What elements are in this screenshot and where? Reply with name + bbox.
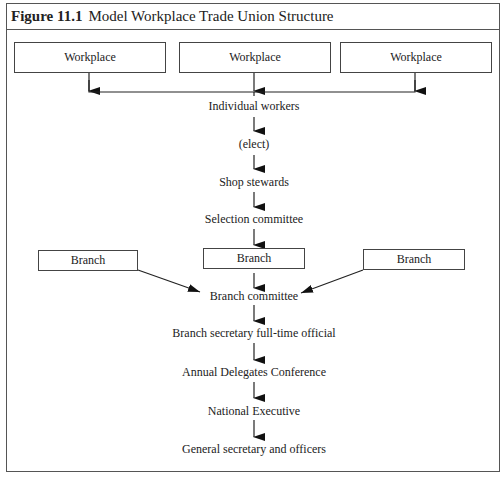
branch-box-1: Branch [38,250,138,271]
figure-title-bar: Figure 11.1Model Workplace Trade Union S… [7,4,499,30]
node-selection-committee: Selection committee [205,212,303,227]
node-branch-committee: Branch committee [210,289,298,304]
workplace-label: Workplace [229,50,281,65]
figure-title-text: Model Workplace Trade Union Structure [88,8,333,24]
branch-label: Branch [237,251,272,266]
node-shop-stewards: Shop stewards [219,175,289,190]
workplace-box-2: Workplace [179,42,331,73]
node-individual-workers: Individual workers [209,99,300,114]
workplace-box-3: Workplace [340,42,492,73]
workplace-label: Workplace [390,50,442,65]
node-annual-delegates-conference: Annual Delegates Conference [182,365,326,380]
figure-title: Figure 11.1Model Workplace Trade Union S… [11,8,334,25]
branch-label: Branch [71,253,106,268]
node-branch-secretary: Branch secretary full-time official [172,326,335,341]
branch-box-2: Branch [203,248,305,269]
workplace-box-1: Workplace [14,42,166,73]
node-national-executive: National Executive [208,404,300,419]
workplace-label: Workplace [64,50,116,65]
figure-frame: Figure 11.1Model Workplace Trade Union S… [6,3,500,472]
figure-number: Figure 11.1 [11,8,82,24]
node-general-secretary: General secretary and officers [182,442,326,457]
branch-label: Branch [397,252,432,267]
node-elect: (elect) [239,137,270,152]
branch-box-3: Branch [363,249,465,270]
